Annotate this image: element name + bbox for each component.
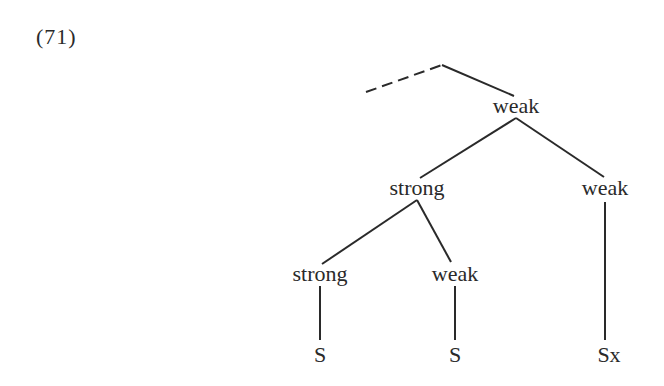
leaf-s-2: S: [449, 344, 461, 366]
node-level2-weak: weak: [582, 177, 628, 199]
edge-root-weak: [516, 118, 604, 177]
node-root-weak: weak: [493, 95, 539, 117]
edge-strong-weak: [417, 200, 451, 262]
edge-apex-root: [442, 65, 514, 96]
node-level3-strong: strong: [293, 263, 348, 285]
edge-strong-strong: [322, 200, 417, 264]
node-level2-strong: strong: [390, 177, 445, 199]
leaf-s-1: S: [314, 344, 326, 366]
node-level3-weak: weak: [432, 263, 478, 285]
leaf-sx: Sx: [597, 344, 620, 366]
tree-edges: [0, 0, 664, 386]
dashed-edge-to-parent: [366, 65, 442, 92]
edge-root-strong: [420, 118, 516, 178]
